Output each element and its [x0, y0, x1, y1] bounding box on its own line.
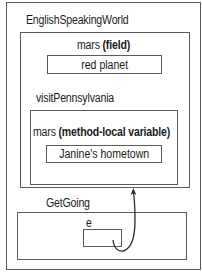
local-variable-value-box: Janine's hometown [46, 145, 162, 163]
field-value: red planet [81, 58, 128, 72]
reference-variable-box [83, 229, 122, 247]
reference-variable-label: e [86, 216, 92, 230]
field-kind: (field) [103, 38, 131, 52]
class-title-english-speaking-world: EnglishSpeakingWorld [26, 13, 129, 27]
local-variable-label: mars (method-local variable) [33, 125, 170, 139]
field-label: mars (field) [77, 38, 130, 52]
local-variable-kind: (method-local variable) [59, 125, 171, 139]
local-variable-value: Janine's hometown [59, 147, 149, 161]
class-title-get-going: GetGoing [46, 196, 90, 210]
field-name: mars [77, 38, 100, 52]
local-variable-name: mars [33, 125, 56, 139]
method-title-visit-pennsylvania: visitPennsylvania [36, 91, 114, 105]
field-value-box: red planet [47, 55, 162, 74]
